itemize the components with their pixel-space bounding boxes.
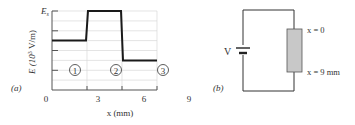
circuit-wires bbox=[243, 10, 294, 91]
region-1-label: 1 bbox=[73, 66, 78, 76]
grid bbox=[52, 11, 157, 90]
y-axis-label: E (103 V/m) bbox=[27, 30, 37, 75]
x-tick-3: 3 bbox=[96, 94, 101, 104]
x-tick-6: 6 bbox=[142, 94, 147, 104]
x-axis-label: x (mm) bbox=[107, 108, 134, 118]
panel-label-a: (a) bbox=[11, 83, 22, 93]
field-step-line bbox=[52, 11, 157, 60]
panel-label-b: (b) bbox=[213, 83, 224, 93]
chart-panel-a: 1 2 3 Es E (103 V/m) 0 3 6 9 x (mm) (a) bbox=[11, 6, 192, 118]
x-tick-9: 9 bbox=[187, 94, 192, 104]
battery-label: V bbox=[224, 46, 232, 57]
region-2-label: 2 bbox=[114, 66, 119, 76]
y-tick-es: Es bbox=[40, 6, 50, 17]
x-tick-0: 0 bbox=[44, 94, 49, 104]
resistor-bar bbox=[287, 29, 302, 72]
resistor-bottom-label: x = 9 mm bbox=[307, 67, 340, 77]
resistor-top-label: x = 0 bbox=[307, 25, 325, 35]
circuit-panel-b: V x = 0 x = 9 mm (b) bbox=[213, 10, 340, 93]
figure: 1 2 3 Es E (103 V/m) 0 3 6 9 x (mm) (a) bbox=[0, 0, 355, 125]
battery-icon bbox=[236, 48, 250, 53]
region-3-label: 3 bbox=[161, 66, 166, 76]
